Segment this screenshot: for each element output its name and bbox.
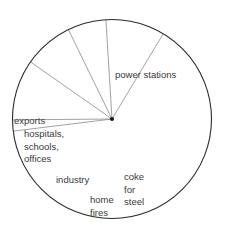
slice-label-line: hospitals, xyxy=(24,128,64,139)
pie-chart: power stationsexportshospitals,schools,o… xyxy=(0,0,225,238)
slice-label-line: schools, xyxy=(24,141,59,152)
slice-label-line: power stations xyxy=(115,69,177,80)
slice-divider xyxy=(30,62,112,119)
slice-label-hospitals-schools-offices: hospitals,schools,offices xyxy=(24,128,64,164)
slice-label-line: coke xyxy=(124,171,144,182)
slice-divider xyxy=(106,20,112,119)
pie-chart-container: power stationsexportshospitals,schools,o… xyxy=(0,0,225,238)
slice-label-exports: exports xyxy=(14,115,45,126)
slice-label-line: steel xyxy=(124,196,144,207)
slice-divider xyxy=(68,30,112,119)
slice-label-line: fires xyxy=(90,207,108,218)
slice-label-home-fires: homefires xyxy=(90,194,114,218)
slice-label-line: exports xyxy=(14,115,45,126)
slice-label-line: offices xyxy=(24,153,52,164)
slice-label-industry: industry xyxy=(56,174,90,185)
slice-label-line: home xyxy=(90,194,114,205)
slice-label-line: industry xyxy=(56,174,90,185)
slice-label-power-stations: power stations xyxy=(115,69,177,80)
pie-center-dot xyxy=(110,117,114,121)
slice-label-line: for xyxy=(124,184,135,195)
slice-label-coke-for-steel: cokeforsteel xyxy=(124,171,144,207)
slice-label-group: power stationsexportshospitals,schools,o… xyxy=(14,69,177,218)
